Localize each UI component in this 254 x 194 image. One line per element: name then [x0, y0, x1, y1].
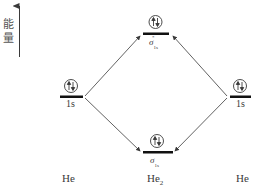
electron-pair-circle	[149, 16, 162, 29]
electron-pair-circle	[234, 80, 247, 93]
level-bar	[143, 33, 169, 36]
species-he2-subscript: 2	[160, 179, 164, 187]
right-1s-level	[230, 80, 251, 99]
right-1s-label: 1s	[236, 99, 245, 109]
species-he2-base: He	[147, 172, 160, 184]
mo-energy-diagram	[0, 0, 254, 194]
antibonding-sigma-1s-level	[143, 16, 169, 36]
level-bar	[143, 151, 173, 154]
energy-axis-label-1: 能	[3, 19, 14, 30]
line-right-to-antibonding	[173, 36, 227, 96]
species-left-he: He	[62, 173, 75, 184]
line-right-to-bonding	[175, 98, 227, 151]
line-left-to-antibonding	[85, 36, 140, 96]
line-left-to-bonding	[85, 98, 140, 151]
electron-pair-circle	[151, 135, 164, 148]
bonding-sigma-1s-level	[143, 135, 173, 154]
subscript: 1s	[153, 45, 157, 50]
subscript: 1s	[154, 163, 158, 168]
left-1s-label: 1s	[66, 99, 75, 109]
correlation-lines	[85, 36, 227, 151]
energy-axis-label-2: 量	[3, 33, 14, 44]
electron-pair-circle	[65, 80, 78, 93]
bonding-label: σ1s	[150, 156, 159, 167]
left-1s-level	[60, 80, 83, 99]
species-right-he: He	[236, 173, 249, 184]
antibonding-label: σ1s*	[149, 37, 160, 49]
species-he2: He2	[147, 173, 163, 187]
